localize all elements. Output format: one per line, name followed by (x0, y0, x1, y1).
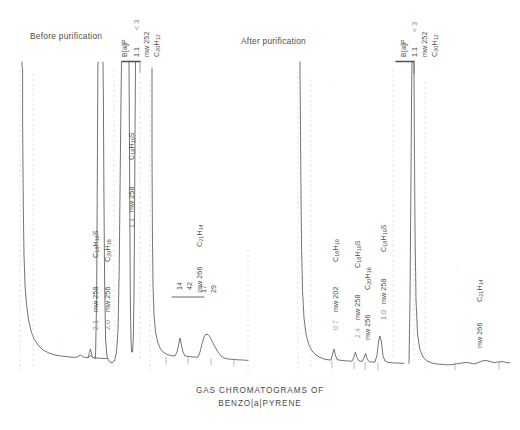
trace-panel1-peak-258a (96, 62, 99, 358)
sub-10: 10 (94, 235, 100, 241)
trace-panel1-peak-256 (103, 62, 122, 363)
label-p1-bap-mw: mw 252 (143, 32, 151, 57)
label-p2-peakB-area: 29 (210, 285, 218, 293)
trace-panel3-peak-258 (409, 62, 412, 363)
sub-16: 16 (334, 251, 340, 257)
figure-caption-line-2: BENZO|a|PYRENE (0, 399, 520, 408)
label-p2-group-formula: C21H14 (196, 224, 204, 247)
sub-10d: 10 (356, 245, 362, 251)
label-p3-bap-ratio: < 3 (411, 22, 419, 32)
sub-18: 18 (94, 247, 100, 253)
label-p3-peak4-rt: 1.0 (380, 310, 388, 320)
label-p1-peak1-mw: mw 258 (92, 287, 100, 312)
sub-10c: 10 (334, 239, 340, 245)
chromatogram-traces (0, 0, 520, 430)
trace-panel2-baseline (152, 68, 248, 360)
label-p3-bap-formula: C20H12 (431, 34, 439, 57)
sub-20c: 20 (433, 46, 439, 52)
panel-title-after-purification: After purification (241, 36, 306, 46)
label-p3-bap-rt: 1.1 (411, 47, 419, 57)
formula-h: H (153, 40, 161, 45)
label-p1-bap-formula: C20H12 (153, 34, 161, 57)
label-p3-peak4-mw: mw 258 (380, 279, 388, 304)
label-p2-peakA-rt: 14 (176, 282, 184, 290)
sub-18d: 18 (382, 241, 388, 247)
sub-16: 16 (106, 239, 112, 245)
label-p3-peak1-formula: C16H10 (332, 239, 340, 262)
formula-c: C (153, 52, 161, 57)
formula-sub-20: 20 (155, 46, 161, 52)
trace-panel3-baseline (300, 62, 404, 363)
label-p2-peakA-area: 42 (186, 282, 194, 290)
label-p3-peak4-formula: C18H10S (380, 224, 388, 252)
label-p4-group-mw: mw 266 (476, 323, 484, 348)
label-p1-peak2-formula: C20H16 (104, 239, 112, 262)
sub-12c: 12 (433, 34, 439, 40)
label-p1-bap-ratio: < 3 (133, 20, 141, 30)
sub-21: 21 (198, 236, 204, 242)
formula-sub-12: 12 (155, 34, 161, 40)
sub-16b: 16 (366, 267, 372, 273)
sub-10b: 10 (130, 137, 136, 143)
label-p1-bap: B[a]P (121, 39, 129, 57)
sub-20: 20 (106, 251, 112, 257)
sub-14b: 14 (478, 279, 484, 285)
label-p2-group-mw: mw 266 (196, 267, 204, 292)
label-p1-peak2-mw: mw 256 (104, 287, 112, 312)
label-p3-peak3-mw: mw 256 (364, 315, 372, 340)
label-p3-peak2-formula: C18H10S (354, 240, 362, 268)
panel-title-before-purification: Before purification (30, 31, 102, 41)
label-p3-bap-mw: mw 252 (421, 32, 429, 57)
label-p3-peak2-mw: mw 258 (354, 295, 362, 320)
trace-panel3-ticks (332, 361, 378, 370)
label-p3-bap: B[a]P (400, 39, 408, 57)
label-p3-peak3-formula: C20H16 (364, 267, 372, 290)
label-p1-peak2-ratio: 2.0 (104, 320, 112, 330)
figure-caption-line-1: GAS CHROMATOGRAMS OF (0, 386, 520, 395)
sub-10e: 10 (382, 229, 388, 235)
trace-panel3-bap-descend (414, 62, 442, 364)
trace-panel1-baseline (22, 62, 107, 359)
sub-18c: 18 (356, 257, 362, 263)
label-p1-peak3-formula: C18H10S (128, 132, 136, 160)
sub-21b: 21 (478, 291, 484, 297)
label-p4-group-formula: C21H14 (476, 279, 484, 302)
sub-14: 14 (198, 224, 204, 230)
trace-panel4-baseline (442, 360, 510, 364)
label-p1-bap-rt: 1.1 (133, 47, 141, 57)
sub-20d: 20 (366, 279, 372, 285)
label-p3-peak1-rt: 0.7 (332, 320, 340, 330)
gas-chromatogram-figure: Before purification After purification B… (0, 0, 520, 430)
label-p3-peak1-mw: mw 202 (332, 287, 340, 312)
label-p1-peak3-mw: mw 258 (128, 187, 136, 212)
label-p1-peak1-rt: 2.1 (92, 320, 100, 330)
label-p1-peak3-rt: 1.1 (128, 218, 136, 228)
label-p1-peak1-formula: C18H10S (92, 230, 100, 258)
label-p3-peak2-rt: 2.4 (354, 328, 362, 338)
sub-18b: 18 (130, 149, 136, 155)
